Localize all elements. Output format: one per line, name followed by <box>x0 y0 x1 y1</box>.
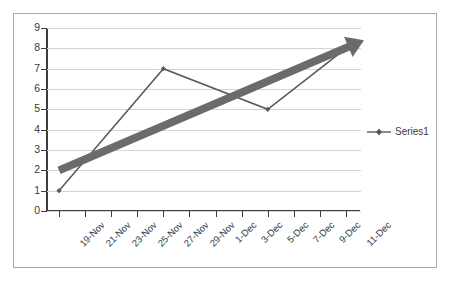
series-plot <box>14 14 438 269</box>
legend: Series1 <box>366 126 429 137</box>
legend-marker-icon <box>366 127 392 137</box>
chart-frame: 0123456789 19-Nov21-Nov23-Nov25-Nov27-No… <box>13 13 437 268</box>
trend-arrow-annotation <box>58 37 365 174</box>
legend-entry-label: Series1 <box>395 126 429 137</box>
